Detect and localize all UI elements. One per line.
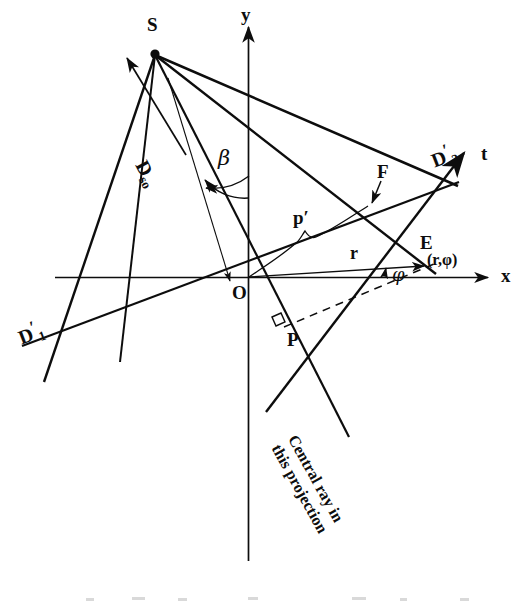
label-p-prime: p′ <box>293 208 309 227</box>
f-pointer-arrow <box>372 181 381 203</box>
label-axis-y: y <box>241 5 251 24</box>
central-ray <box>155 55 349 437</box>
phi-angle-arc <box>384 268 386 277</box>
right-angle-mark <box>272 313 285 326</box>
label-radius-r: r <box>350 244 358 262</box>
source-point-dot <box>150 49 159 58</box>
label-focus-f: F <box>377 162 389 181</box>
e-coordinates-text: (r,φ) <box>427 251 457 268</box>
label-source-s: S <box>147 15 158 34</box>
label-point-e: E <box>420 233 433 252</box>
figure-canvas: S y x t O F E (r,φ) P β φ r p′ Dso D′1 D… <box>0 0 531 604</box>
label-phi-angle: φ <box>392 266 405 284</box>
label-axis-x: x <box>501 266 511 285</box>
axis-t <box>266 153 464 412</box>
cut-caption-fragments <box>86 597 469 601</box>
label-axis-t: t <box>481 144 487 163</box>
diagram-svg <box>0 0 531 604</box>
label-point-e-coords: (r,φ) <box>427 252 457 268</box>
label-origin-o: O <box>232 283 247 302</box>
label-foot-p: P <box>287 330 299 349</box>
d-so-measure-arrow <box>168 78 230 281</box>
label-beta-angle: β <box>218 148 230 169</box>
fan-beam-rays <box>44 55 458 382</box>
